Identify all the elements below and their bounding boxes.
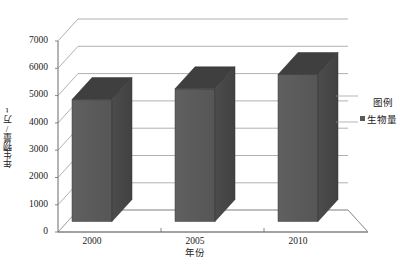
y-axis-title: 年生物量/万t bbox=[3, 106, 12, 168]
x-tick-label-2000: 2000 bbox=[69, 237, 115, 247]
bar-2005-side bbox=[215, 67, 235, 222]
bar-2010[interactable] bbox=[278, 53, 338, 222]
chart-3d-canvas bbox=[0, 0, 411, 266]
y-tick-label-3000: 3000 bbox=[14, 145, 48, 155]
legend-item-biomass[interactable]: 生物量 bbox=[360, 112, 406, 126]
y-tick-label-2000: 2000 bbox=[14, 172, 48, 182]
legend-title: 图例 bbox=[360, 99, 406, 109]
bar-2005-front bbox=[175, 89, 215, 222]
y-tick-label-4000: 4000 bbox=[14, 118, 48, 128]
chart-container: 7000 6000 5000 4000 3000 2000 1000 0 年生物… bbox=[0, 0, 411, 266]
y-tick-label-0: 0 bbox=[14, 227, 48, 237]
x-tick-label-2010: 2010 bbox=[275, 237, 321, 247]
legend: 图例 生物量 bbox=[360, 99, 406, 126]
bar-2010-front bbox=[278, 75, 318, 222]
y-tick-label-5000: 5000 bbox=[14, 90, 48, 100]
x-tick-label-2005: 2005 bbox=[172, 237, 218, 247]
y-tick-label-7000: 7000 bbox=[14, 36, 48, 46]
bar-2010-side bbox=[318, 53, 338, 222]
legend-swatch-icon bbox=[360, 116, 365, 121]
bar-2000[interactable] bbox=[72, 78, 132, 222]
bar-2000-side bbox=[112, 78, 132, 222]
y-tick-label-1000: 1000 bbox=[14, 200, 48, 210]
bar-2005[interactable] bbox=[175, 67, 235, 222]
footer-caption bbox=[62, 256, 402, 265]
y-tick-label-6000: 6000 bbox=[14, 63, 48, 73]
bar-2000-front bbox=[72, 100, 112, 222]
legend-item-label: 生物量 bbox=[367, 112, 397, 126]
